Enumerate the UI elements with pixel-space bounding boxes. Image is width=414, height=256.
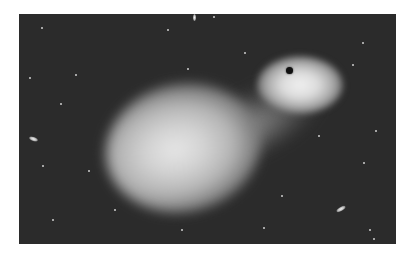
star-dot (88, 170, 90, 172)
star-dot (187, 68, 189, 70)
star-dot (41, 27, 43, 29)
galaxy-ellipse (29, 136, 39, 143)
star-dot (52, 219, 54, 221)
accretion-disk (257, 56, 343, 114)
star-dot (362, 42, 364, 44)
star-dot (213, 16, 215, 18)
star-dot (352, 64, 354, 66)
star-dot (375, 130, 377, 132)
galaxy-ellipse (336, 205, 347, 213)
starfield-image (19, 14, 396, 244)
star-dot (60, 103, 62, 105)
star-dot (244, 52, 246, 54)
star-dot (318, 135, 320, 137)
star-dot (42, 165, 44, 167)
star-dot (114, 209, 116, 211)
star-dot (29, 77, 31, 79)
star-dot (363, 162, 365, 164)
star-dot (281, 195, 283, 197)
star-dot (167, 29, 169, 31)
star-dot (75, 74, 77, 76)
star-dot (181, 229, 183, 231)
star-dot (373, 238, 375, 240)
galaxy-ellipse (193, 14, 196, 21)
star-dot (263, 227, 265, 229)
black-hole (286, 67, 293, 74)
star-dot (369, 229, 371, 231)
